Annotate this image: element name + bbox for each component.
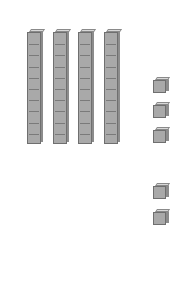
unit-divider — [29, 123, 39, 124]
unit-divider — [55, 134, 65, 135]
unit-divider — [106, 67, 116, 68]
unit-cube-block — [153, 209, 170, 225]
unit-divider — [29, 111, 39, 112]
unit-divider — [55, 55, 65, 56]
unit-divider — [106, 111, 116, 112]
unit-divider — [29, 134, 39, 135]
unit-divider — [55, 123, 65, 124]
unit-divider — [80, 134, 90, 135]
unit-divider — [29, 67, 39, 68]
unit-divider — [29, 78, 39, 79]
unit-divider — [106, 134, 116, 135]
unit-divider — [29, 89, 39, 90]
unit-divider — [80, 100, 90, 101]
unit-divider — [80, 111, 90, 112]
unit-divider — [80, 123, 90, 124]
unit-cube-block — [153, 127, 170, 143]
unit-divider — [29, 100, 39, 101]
unit-divider — [80, 78, 90, 79]
unit-divider — [55, 89, 65, 90]
unit-divider — [80, 89, 90, 90]
unit-cube-block — [153, 183, 170, 199]
unit-divider — [55, 78, 65, 79]
unit-divider — [106, 44, 116, 45]
unit-divider — [106, 123, 116, 124]
unit-divider — [106, 89, 116, 90]
unit-divider — [55, 111, 65, 112]
unit-divider — [106, 78, 116, 79]
ten-rod-block — [78, 29, 94, 144]
unit-cube-block — [153, 102, 170, 118]
unit-divider — [80, 44, 90, 45]
unit-divider — [80, 67, 90, 68]
unit-divider — [29, 55, 39, 56]
ten-rod-block — [27, 29, 43, 144]
unit-divider — [55, 44, 65, 45]
unit-divider — [55, 67, 65, 68]
unit-divider — [106, 55, 116, 56]
unit-divider — [55, 100, 65, 101]
unit-divider — [80, 55, 90, 56]
unit-divider — [106, 100, 116, 101]
unit-cube-block — [153, 77, 170, 93]
unit-divider — [29, 44, 39, 45]
ten-rod-block — [104, 29, 120, 144]
ten-rod-block — [53, 29, 69, 144]
